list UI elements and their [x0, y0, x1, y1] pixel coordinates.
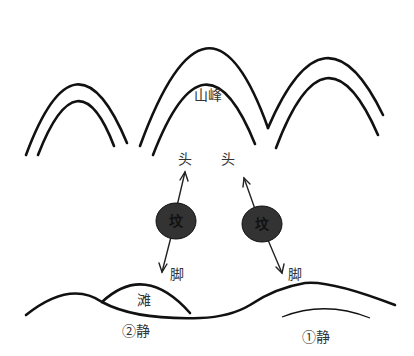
tomb-right-label: 坟	[255, 217, 269, 231]
right-mountain-inner	[276, 78, 378, 148]
calm-1-line	[282, 309, 370, 318]
diagram-lines	[0, 0, 414, 356]
calm-1-label: ①静	[302, 330, 330, 344]
peak-label: 山峰	[194, 88, 222, 102]
head-right-label: 头	[221, 152, 235, 166]
tomb-left-label: 坟	[169, 214, 183, 228]
arrow-foot-right	[268, 240, 282, 273]
foot-right-label: 脚	[288, 267, 302, 281]
left-mountain-inner	[38, 101, 114, 155]
foot-left-label: 脚	[170, 267, 184, 281]
calm-2-label: ②静	[122, 324, 150, 338]
head-left-label: 头	[178, 152, 192, 166]
right-mountain-outer	[268, 58, 383, 128]
diagram-canvas: 山峰 头 头 脚 脚 滩 ②静 ①静 坟 坟	[0, 0, 414, 356]
beach-label: 滩	[137, 293, 151, 307]
ground-line	[26, 283, 395, 319]
